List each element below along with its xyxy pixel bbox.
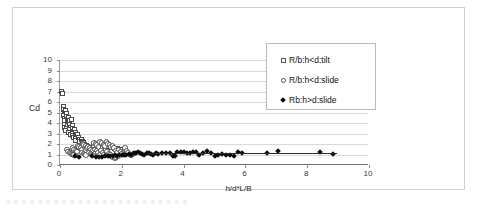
y-tick-mark [57,123,60,124]
x-tick-label: 10 [364,170,373,178]
x-tick-label: 4 [180,170,184,178]
gridline [60,134,368,135]
x-tick-label: 0 [57,170,61,178]
y-tick-mark [57,155,60,156]
chart-frame: Cd 012345678910 0246810 h/d*L/B R/b:h<d:… [12,7,465,190]
y-tick-label: 10 [43,56,52,64]
y-tick-label: 4 [48,119,52,127]
y-tick-label: 9 [48,67,52,75]
gridline [60,113,368,114]
filled-diamond-icon [277,98,289,102]
x-tick-mark [184,165,185,168]
x-tick-mark [122,165,123,168]
y-tick-label: 5 [48,109,52,117]
legend-item-tilt: R/b:h<d:tilt [267,50,375,70]
y-tick-label: 2 [48,140,52,148]
x-tick-mark [60,165,61,168]
legend-label-slide-dh: Rb:h>d:slide [289,96,337,105]
y-tick-mark [57,134,60,135]
trendline [148,153,336,154]
legend-item-slide-hd: R/b:h<d:slide [267,70,375,90]
hollow-circle-icon [277,78,289,83]
figure-container: Cd 012345678910 0246810 h/d*L/B R/b:h<d:… [0,0,479,215]
scan-artifact-text: a e a a a e a e a a a a a e a a a a a e … [6,198,474,205]
y-tick-label: 3 [48,130,52,138]
legend-label-tilt: R/b:h<d:tilt [289,56,330,65]
x-tick-label: 8 [304,170,308,178]
x-axis-title: h/d*L/B [13,185,464,193]
legend: R/b:h<d:tilt R/b:h<d:slide Rb:h>d:slide [266,43,376,110]
y-tick-label: 8 [48,77,52,85]
y-tick-mark [57,113,60,114]
y-axis-title: Cd [29,104,40,113]
y-tick-label: 7 [48,88,52,96]
hollow-square-icon [277,58,289,63]
y-tick-label: 0 [48,161,52,169]
y-tick-mark [57,144,60,145]
x-tick-mark [245,165,246,168]
y-tick-mark [57,102,60,103]
y-tick-mark [57,71,60,72]
y-tick-label: 6 [48,98,52,106]
y-tick-label: 1 [48,151,52,159]
y-tick-mark [57,60,60,61]
x-tick-mark [369,165,370,168]
x-tick-label: 2 [119,170,123,178]
data-point [60,91,65,96]
data-point [69,117,74,122]
y-tick-mark [57,81,60,82]
x-tick-label: 6 [242,170,246,178]
x-tick-mark [307,165,308,168]
legend-label-slide-hd: R/b:h<d:slide [289,76,339,85]
legend-item-slide-dh: Rb:h>d:slide [267,90,375,110]
gridline [60,123,368,124]
